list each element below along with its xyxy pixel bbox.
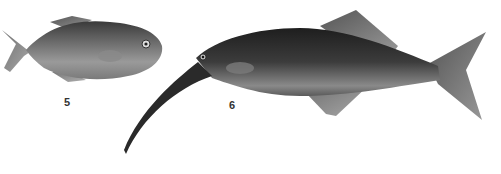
figure-label-6: 6 <box>229 99 235 111</box>
fish-6 <box>124 10 486 154</box>
figure-label-5: 5 <box>64 96 70 108</box>
fish-plate-illustration: 5 6 <box>0 0 501 174</box>
fish-5 <box>2 16 162 82</box>
